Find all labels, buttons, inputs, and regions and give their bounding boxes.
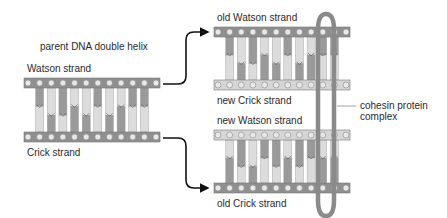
base-pair xyxy=(307,37,315,80)
base-pair xyxy=(272,140,280,183)
base-pair xyxy=(82,88,90,132)
new-crick-label: new Crick strand xyxy=(217,95,291,106)
arrow-to-top-daughter xyxy=(163,32,208,84)
parent-dna-title: parent DNA double helix xyxy=(40,41,148,52)
base-pair xyxy=(226,37,234,80)
parent-watson-label: Watson strand xyxy=(27,63,91,74)
arrow-to-bottom-daughter xyxy=(163,138,208,188)
parent-watson-strand xyxy=(24,78,160,88)
parent-crick-label: Crick strand xyxy=(27,147,80,158)
new-watson-strand xyxy=(214,130,350,140)
base-pair xyxy=(272,37,280,80)
parent-crick-strand xyxy=(24,132,160,142)
daughter-duplex-bottom xyxy=(214,130,350,193)
old-watson-label: old Watson strand xyxy=(217,12,297,23)
base-pair xyxy=(237,37,245,80)
base-pair xyxy=(307,140,315,183)
base-pair xyxy=(129,88,137,132)
base-pair xyxy=(249,140,257,183)
old-watson-strand xyxy=(214,27,350,37)
base-pair xyxy=(117,88,125,132)
cohesin-label-line1: cohesin protein xyxy=(360,100,428,111)
old-crick-strand xyxy=(214,183,350,193)
base-pair xyxy=(140,88,148,132)
base-pair xyxy=(284,140,292,183)
base-pair xyxy=(36,88,44,132)
base-pair xyxy=(105,88,113,132)
daughter-duplex-top xyxy=(214,27,350,90)
base-pair xyxy=(295,37,303,80)
base-pair xyxy=(284,37,292,80)
old-crick-label: old Crick strand xyxy=(217,198,286,209)
base-pair xyxy=(261,37,269,80)
base-pair xyxy=(71,88,79,132)
parent-dna-duplex xyxy=(24,78,160,142)
new-watson-label: new Watson strand xyxy=(217,115,302,126)
base-pair xyxy=(261,140,269,183)
base-pair xyxy=(226,140,234,183)
base-pair xyxy=(249,37,257,80)
base-pair xyxy=(59,88,67,132)
base-pair xyxy=(47,88,55,132)
new-crick-strand xyxy=(214,80,350,90)
cohesin-label-line2: complex xyxy=(360,111,397,122)
base-pair xyxy=(295,140,303,183)
base-pair xyxy=(237,140,245,183)
base-pair xyxy=(94,88,102,132)
